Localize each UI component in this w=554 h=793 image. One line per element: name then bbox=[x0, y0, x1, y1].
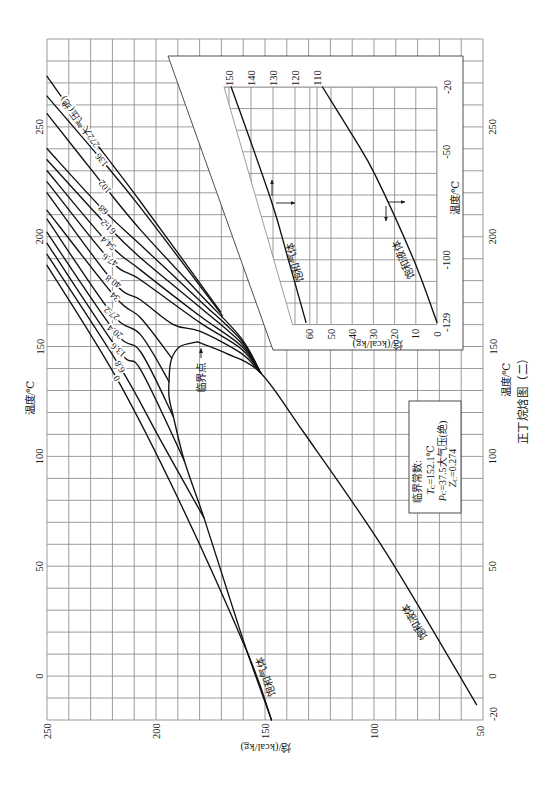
enthalpy-tick-label: 100 bbox=[369, 723, 380, 739]
inset-temperature-tick-label: -100 bbox=[442, 250, 453, 269]
inset-temperature-tick-label: -129 bbox=[442, 313, 453, 332]
inset-upper-enthalpy-tick-label: 150 bbox=[224, 70, 235, 86]
inset-lower-enthalpy-tick-label: 60 bbox=[304, 329, 315, 340]
inset-lower-enthalpy-tick-label: 40 bbox=[347, 329, 358, 340]
critical-constants-title: 临界常数: bbox=[411, 460, 423, 503]
temperature-tick-label: 50 bbox=[35, 561, 46, 572]
temperature-tick-label: 150 bbox=[488, 339, 499, 355]
inset-lower-enthalpy-tick-label: 50 bbox=[326, 329, 337, 340]
inset-temperature-axis-title: 温度/℃ bbox=[449, 180, 461, 215]
temperature-tick-label: 250 bbox=[488, 119, 499, 135]
inset-lower-enthalpy-tick-label: 10 bbox=[410, 329, 421, 340]
inset-upper-enthalpy-tick-label: 140 bbox=[246, 70, 257, 86]
temperature-tick-label: 200 bbox=[35, 229, 46, 245]
temperature-axis-title-top: 温度/℃ bbox=[24, 380, 36, 415]
critical-constants-box: 临界常数: TC=152.1℃ PC=37.5大气压(绝) ZC=0.274 bbox=[409, 401, 461, 513]
inset-temperature-tick-label: -50 bbox=[442, 145, 453, 159]
temperature-tick-label: 250 bbox=[35, 119, 46, 135]
temperature-tick-label: 0 bbox=[35, 673, 46, 678]
inset-upper-enthalpy-tick-label: 120 bbox=[290, 70, 301, 86]
inset-lower-enthalpy-tick-label: 30 bbox=[368, 329, 379, 340]
inset-upper-enthalpy-tick-label: 110 bbox=[312, 70, 323, 85]
temperature-tick-label: 200 bbox=[488, 229, 499, 245]
inset-upper-enthalpy-tick-label: 130 bbox=[268, 70, 279, 86]
critical-point-label: 临界点 bbox=[195, 363, 207, 393]
temperature-tick-label: 100 bbox=[35, 449, 46, 465]
n-butane-enthalpy-chart: 06.813.620.427.23440.847.654.461.2681021… bbox=[0, 0, 554, 793]
temperature-tick-label: 50 bbox=[488, 561, 499, 572]
constant-symbol: P bbox=[436, 495, 447, 502]
figure-caption: 正丁烷焓图（二） bbox=[516, 352, 529, 444]
temperature-tick-label: 150 bbox=[35, 339, 46, 355]
temperature-tick-label: 100 bbox=[488, 449, 499, 465]
inset-lower-enthalpy-tick-label: 20 bbox=[389, 329, 400, 340]
inset-enthalpy-axis-title: 焓/(kcal/kg) bbox=[352, 338, 403, 351]
enthalpy-tick-label: 150 bbox=[260, 723, 271, 739]
constant-value: =152.1℃ bbox=[425, 445, 436, 484]
enthalpy-axis-title: 焓/(kcal/kg) bbox=[240, 741, 291, 754]
temperature-axis-title-bottom: 温度/℃ bbox=[500, 362, 512, 397]
inset-temperature-tick-label: -20 bbox=[442, 80, 453, 94]
enthalpy-tick-label: 200 bbox=[151, 723, 162, 739]
temperature-tick-label: 0 bbox=[488, 673, 499, 678]
enthalpy-tick-label: 50 bbox=[475, 726, 486, 737]
enthalpy-tick-label: 250 bbox=[42, 723, 53, 739]
constant-value: =0.274 bbox=[447, 449, 458, 477]
temperature-tick-label: -20 bbox=[488, 707, 499, 721]
